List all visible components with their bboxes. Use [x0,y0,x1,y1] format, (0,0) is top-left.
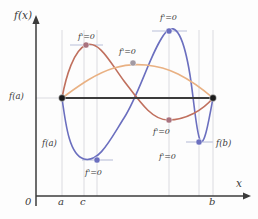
x-axis-label: x [236,178,242,189]
crit-blue-min-left [94,157,100,163]
crit-label-orange-max: f'=0 [119,48,136,56]
blue-curve [62,29,213,160]
crit-label-blue-min-left: f'=0 [85,169,102,177]
endpoint-b [210,95,217,102]
crit-orange-max [130,60,136,66]
x-tick-label-c: c [80,197,86,207]
x-tick-label-a: a [58,197,64,207]
plot-canvas [0,0,258,219]
crit-blue-max [166,28,172,34]
crit-label-blue-min-right: f'=0 [159,153,176,161]
crit-blue-min-right [196,139,202,145]
tangent-segments [70,31,213,160]
crit-red-max [83,42,89,48]
y-axis-label: f(x) [14,10,32,21]
right-endpoint-value-label: f(b) [216,139,231,148]
crit-label-blue-max: f'=0 [160,14,177,22]
left-endpoint-value-label: f(a) [42,139,57,148]
function-curves [62,29,213,160]
y-tick-label-fa: f(a) [9,92,24,101]
rolles-theorem-figure: f(x) x 0 f(a) a c b f(a) f(b) f'=0 f'=0 … [0,0,258,219]
origin-label: 0 [25,197,31,207]
endpoint-a [59,95,66,102]
crit-label-red-max: f'=0 [78,33,95,41]
crit-red-min [166,117,172,123]
y-axis-arrow-icon [32,15,39,24]
crit-label-red-min: f'=0 [153,128,170,136]
x-axis-arrow-icon [243,192,251,199]
x-tick-label-b: b [209,197,215,207]
